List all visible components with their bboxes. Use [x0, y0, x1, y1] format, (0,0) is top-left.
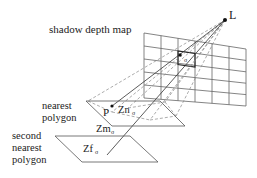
zf-label: Zf [83, 143, 93, 154]
second-polygon-label-3: polygon [12, 154, 47, 165]
depth-sample-dot [179, 54, 182, 57]
zm-sigma: σ [111, 129, 115, 135]
zn-label: Zn [118, 104, 130, 115]
diagram-canvas: L shadow depth map nearest polygon secon… [0, 0, 257, 178]
zm-label: Zm [96, 123, 111, 134]
light-source-dot [223, 18, 227, 22]
solid-rays [107, 20, 225, 155]
zf-sigma: σ [95, 149, 99, 155]
shadow-map-diagram: L shadow depth map nearest polygon secon… [0, 0, 257, 178]
second-polygon-label-1: second [12, 130, 42, 141]
grid-sigma: σ [184, 57, 188, 63]
second-polygon-label-2: nearest [12, 142, 42, 153]
depth-map-label: shadow depth map [49, 23, 132, 35]
light-label: L [229, 8, 236, 22]
point-p-dot [110, 104, 113, 107]
nearest-polygon-label-2: polygon [42, 112, 77, 123]
nearest-polygon-label-1: nearest [42, 100, 72, 111]
zn-sigma: σ [132, 110, 136, 116]
second-nearest-polygon [55, 136, 158, 162]
point-p-label: P [103, 106, 109, 118]
